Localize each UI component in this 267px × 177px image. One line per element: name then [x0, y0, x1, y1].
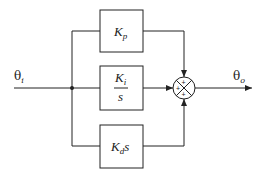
output-label: θo — [233, 69, 245, 85]
kp-to-sum-line — [143, 31, 184, 77]
integral-denominator: s — [118, 89, 123, 104]
sum-sign-bottom: + — [182, 91, 186, 98]
sum-sign-left: + — [176, 85, 180, 92]
kd-to-sum-line — [143, 99, 184, 146]
input-label: θi — [14, 69, 24, 85]
sum-sign-top: + — [182, 79, 186, 86]
derivative-label: Kds — [110, 139, 129, 156]
summing-junction: + + + — [173, 77, 195, 99]
pid-block-diagram: Kp Ki s Kds + + + θi θo — [0, 0, 267, 177]
